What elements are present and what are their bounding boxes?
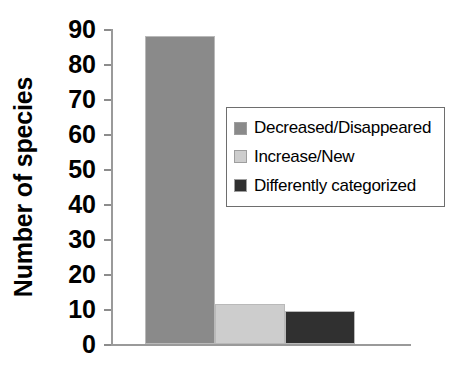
x-axis-line bbox=[111, 344, 411, 346]
y-tick-label: 70 bbox=[68, 87, 96, 112]
legend-item-1[interactable]: Increase/New bbox=[234, 143, 436, 170]
legend-item-2[interactable]: Differently categorized bbox=[234, 172, 436, 199]
y-tick-label: 80 bbox=[68, 52, 96, 77]
y-tick-label: 40 bbox=[68, 192, 96, 217]
legend-label: Decreased/Disappeared bbox=[254, 118, 431, 138]
y-axis-tick-labels: 0102030405060708090 bbox=[46, 29, 104, 344]
y-tick-label: 20 bbox=[68, 262, 96, 287]
y-tick-label: 10 bbox=[68, 297, 96, 322]
legend-swatch-icon bbox=[234, 122, 247, 135]
legend-item-0[interactable]: Decreased/Disappeared bbox=[234, 115, 436, 142]
bar-chart-figure: Number of species 0102030405060708090 De… bbox=[0, 0, 466, 374]
y-tick-label: 0 bbox=[82, 332, 96, 357]
bar-1 bbox=[215, 304, 285, 344]
legend-label: Increase/New bbox=[254, 147, 354, 167]
legend-swatch-icon bbox=[234, 150, 247, 163]
bar-0 bbox=[145, 36, 215, 344]
legend-swatch-icon bbox=[234, 179, 247, 192]
y-axis-title: Number of species bbox=[0, 0, 46, 374]
chart-legend: Decreased/DisappearedIncrease/NewDiffere… bbox=[226, 107, 445, 207]
y-tick-label: 30 bbox=[68, 227, 96, 252]
y-tick-label: 60 bbox=[68, 122, 96, 147]
y-tick-label: 90 bbox=[68, 17, 96, 42]
legend-label: Differently categorized bbox=[254, 176, 416, 196]
y-tick-label: 50 bbox=[68, 157, 96, 182]
bar-2 bbox=[285, 311, 355, 344]
